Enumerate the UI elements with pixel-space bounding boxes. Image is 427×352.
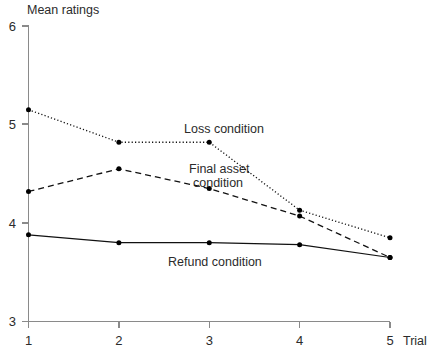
x-tick-label-2: 2 [115, 333, 122, 348]
chart-canvas: Mean ratings 6 5 4 3 1 2 3 4 5 Trial [0, 0, 427, 352]
series-annotation-loss-condition: Loss condition [184, 122, 264, 136]
series-annotation-final-asset-line1: Final asset [189, 162, 250, 176]
data-point [116, 240, 121, 245]
data-point [297, 214, 302, 219]
data-point [116, 140, 121, 145]
x-tick-label-4: 4 [296, 333, 303, 348]
y-tick-label-5: 5 [9, 117, 16, 132]
data-point [388, 235, 393, 240]
y-axis-title: Mean ratings [27, 3, 99, 17]
data-point [388, 255, 393, 260]
data-point [26, 232, 31, 237]
data-point [116, 166, 121, 171]
data-point [207, 240, 212, 245]
x-tick-label-1: 1 [25, 333, 32, 348]
x-tick-label-3: 3 [206, 333, 213, 348]
data-point [297, 242, 302, 247]
data-point [297, 208, 302, 213]
y-tick-label-3: 3 [9, 314, 16, 329]
series-annotation-final-asset-line2: condition [193, 176, 243, 190]
data-point [26, 189, 31, 194]
y-tick-label-4: 4 [9, 216, 16, 231]
series-annotation-refund-condition: Refund condition [168, 255, 262, 269]
x-axis-title: Trial [403, 334, 427, 348]
x-tick-label-5: 5 [386, 333, 393, 348]
y-tick-label-6: 6 [9, 19, 16, 34]
line-chart: Mean ratings 6 5 4 3 1 2 3 4 5 Trial [0, 0, 427, 352]
data-point [26, 107, 31, 112]
data-point [207, 140, 212, 145]
